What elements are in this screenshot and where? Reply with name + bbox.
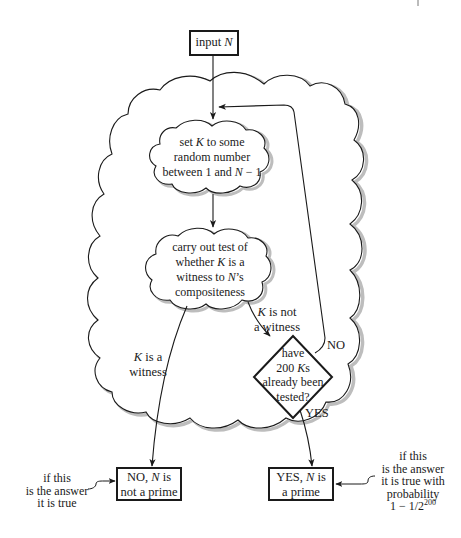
yes-prime-label: YES, N is a prime [269, 470, 333, 500]
edge-label-no: NO [327, 338, 345, 353]
no-prime-label: NO, N is not a prime [117, 470, 181, 500]
yes-note-pointer [336, 476, 375, 484]
test-label: carry out test of whether K is a witness… [148, 240, 272, 300]
edge-label-is-witness: K is a witness [120, 350, 176, 380]
decision-label: have 200 Ks already been tested? [254, 346, 332, 404]
edge-label-yes: YES [305, 406, 329, 421]
no-note-pointer [88, 481, 115, 489]
yes-note: if this is the answer it is true with pr… [372, 450, 454, 513]
no-note: if this is the answer it is true [24, 472, 90, 510]
edge-label-not-witness: K is not a witness [247, 305, 307, 335]
set-k-label: set K to some random number between 1 an… [150, 135, 274, 180]
input-label: input N [190, 35, 238, 50]
